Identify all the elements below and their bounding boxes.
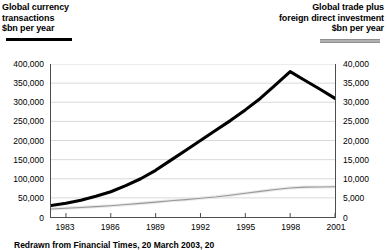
right-axis-title-line3: $bn per year bbox=[279, 23, 384, 34]
right-axis-tick-label: 5,000 bbox=[343, 194, 364, 203]
legend-swatch-trade bbox=[320, 39, 380, 43]
x-axis-tick-label: 1986 bbox=[101, 223, 120, 232]
series-line-currency bbox=[51, 72, 335, 206]
left-axis-tick-label: 0 bbox=[39, 214, 44, 223]
right-axis-tick-label: 20,000 bbox=[343, 137, 369, 146]
plot-area bbox=[50, 64, 336, 218]
right-axis-tick-label: 35,000 bbox=[343, 79, 369, 88]
left-axis-title-line1: Global currency bbox=[2, 2, 69, 13]
source-note: Redrawn from Financial Times, 20 March 2… bbox=[14, 240, 214, 250]
left-axis-title: Global currency transactions $bn per yea… bbox=[2, 2, 69, 34]
x-axis-tick-label: 1989 bbox=[146, 223, 165, 232]
right-axis-title-line2: foreign direct investment bbox=[279, 13, 384, 24]
right-axis-tick-label: 25,000 bbox=[343, 117, 369, 126]
x-axis-tick-label: 1992 bbox=[191, 223, 210, 232]
legend-swatch-currency bbox=[6, 38, 72, 41]
left-axis-tick-label: 50,000 bbox=[18, 194, 44, 203]
left-axis-tick-label: 200,000 bbox=[13, 137, 44, 146]
right-axis-title-line1: Global trade plus bbox=[279, 2, 384, 13]
x-axis-tick-label: 1998 bbox=[281, 223, 300, 232]
left-axis-tick-label: 350,000 bbox=[13, 79, 44, 88]
left-axis-tick-label: 100,000 bbox=[13, 175, 44, 184]
left-axis-tick-label: 150,000 bbox=[13, 156, 44, 165]
x-axis-tick-label: 2001 bbox=[327, 223, 346, 232]
right-axis-tick-label: 30,000 bbox=[343, 98, 369, 107]
x-axis-tick-label: 1995 bbox=[236, 223, 255, 232]
plot-canvas bbox=[51, 64, 335, 217]
right-axis-tick-label: 40,000 bbox=[343, 60, 369, 69]
right-axis-title: Global trade plus foreign direct investm… bbox=[279, 2, 384, 34]
x-axis-tick-label: 1983 bbox=[56, 223, 75, 232]
left-axis-tick-label: 300,000 bbox=[13, 98, 44, 107]
left-axis-title-line3: $bn per year bbox=[2, 23, 69, 34]
right-axis-tick-label: 15,000 bbox=[343, 156, 369, 165]
left-axis-tick-label: 400,000 bbox=[13, 60, 44, 69]
left-axis-tick-label: 250,000 bbox=[13, 117, 44, 126]
right-axis-tick-label: 10,000 bbox=[343, 175, 369, 184]
left-axis-title-line2: transactions bbox=[2, 13, 69, 24]
